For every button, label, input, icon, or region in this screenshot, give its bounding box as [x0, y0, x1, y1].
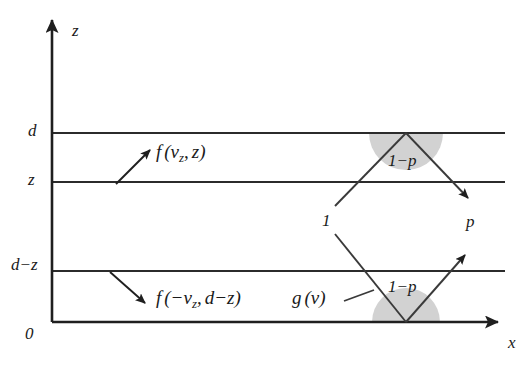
lower-distribution-comma: , [197, 287, 202, 308]
z-axis-label: z [72, 22, 79, 39]
lower-distribution-close-paren: ) [234, 287, 240, 308]
probability-label-incident: 1 [322, 212, 331, 229]
x-axis-label: x [508, 334, 516, 351]
lower-distribution-pointer [110, 272, 145, 303]
upper-distribution-label: f(vz,z) [156, 142, 206, 165]
g-of-v-label: g(v) [292, 288, 326, 307]
g-of-v-v: v [311, 287, 319, 308]
diagram-canvas [0, 0, 524, 366]
upper-distribution-v: v [171, 141, 179, 162]
g-of-v-close-paren: ) [319, 287, 325, 308]
lower-distribution-arg2: d−z [205, 287, 235, 308]
g-of-v-leader [344, 290, 374, 301]
upper-distribution-pointer [116, 150, 150, 184]
lower-distribution-f: f [156, 287, 161, 308]
probability-label-reflected-upper: 1−p [388, 152, 416, 169]
tick-label-d-minus-z: d−z [11, 256, 38, 273]
tick-label-z: z [28, 171, 35, 188]
lower-distribution-minus: − [171, 287, 184, 308]
tick-label-d: d [28, 122, 37, 139]
lower-distribution-label: f(−vz,d−z) [156, 288, 241, 311]
upper-distribution-f: f [156, 141, 161, 162]
diagram-figure: z x 0 d z d−z f(vz,z) f(−vz,d−z) g(v) 1−… [0, 0, 524, 366]
probability-label-transmitted: p [466, 213, 475, 230]
upper-distribution-close-paren: ) [199, 141, 205, 162]
g-of-v-g: g [292, 287, 302, 308]
upper-distribution-comma: , [184, 141, 189, 162]
lower-distribution-v: v [183, 287, 191, 308]
origin-label: 0 [25, 325, 34, 342]
probability-label-reflected-lower: 1−p [388, 278, 416, 295]
